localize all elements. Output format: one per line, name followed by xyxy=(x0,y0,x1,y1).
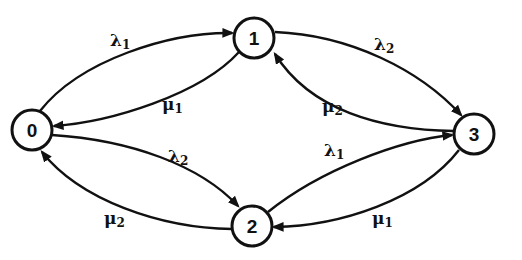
edge-0-to-2 xyxy=(52,135,238,206)
node-0-label: 0 xyxy=(27,120,38,141)
edge-label-3-1: μ2 xyxy=(322,96,343,118)
edge-2-to-0 xyxy=(42,152,232,229)
edge-1-to-0 xyxy=(54,52,239,126)
node-3: 3 xyxy=(454,114,494,154)
node-1: 1 xyxy=(234,18,274,58)
state-diagram: 0 1 2 3 λ1 μ1 λ2 μ2 λ2 μ2 λ1 μ1 xyxy=(0,0,522,260)
edge-label-2-0: μ2 xyxy=(104,208,125,230)
node-1-label: 1 xyxy=(249,28,260,49)
edge-label-2-3: λ1 xyxy=(324,140,344,162)
edge-1-to-3 xyxy=(275,32,461,115)
node-0: 0 xyxy=(12,110,52,150)
node-2: 2 xyxy=(232,206,272,246)
edge-label-0-2: λ2 xyxy=(168,146,188,168)
node-2-label: 2 xyxy=(247,216,258,237)
edge-label-3-2: μ1 xyxy=(372,208,393,230)
edge-2-to-3 xyxy=(268,135,452,212)
edge-3-to-1 xyxy=(275,54,454,131)
edge-label-1-3: λ2 xyxy=(374,34,394,56)
edge-label-0-1: λ1 xyxy=(110,30,130,52)
node-3-label: 3 xyxy=(469,124,480,145)
edge-label-1-0: μ1 xyxy=(162,94,183,116)
edge-0-to-1 xyxy=(40,33,232,111)
